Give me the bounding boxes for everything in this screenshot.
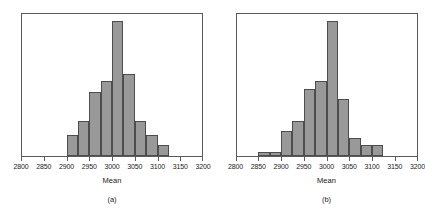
x-axis-ticklabel: 2850 xyxy=(251,162,266,171)
x-axis-tick xyxy=(158,157,159,161)
x-axis-ticklabels-a: 280028502900295030003050310031503200 xyxy=(21,162,203,174)
x-axis-tick xyxy=(258,157,259,161)
x-axis-tick xyxy=(44,157,45,161)
x-axis-ticklabels-b: 280028502900295030003050310031503200 xyxy=(236,162,418,174)
x-axis-tick xyxy=(180,157,181,161)
histogram-bar xyxy=(361,145,372,156)
histogram-bar xyxy=(135,121,146,157)
histogram-bar xyxy=(292,121,303,157)
x-axis-tick xyxy=(236,157,237,161)
x-axis-ticklabel: 2900 xyxy=(59,162,74,171)
histogram-bar xyxy=(123,74,134,156)
x-axis-tick xyxy=(372,157,373,161)
x-axis-tick xyxy=(395,157,396,161)
x-axis-tick xyxy=(304,157,305,161)
bar-series-b xyxy=(236,13,418,157)
x-axis-tick xyxy=(21,157,22,161)
panel-caption-a: (a) xyxy=(21,195,203,205)
plot-area-b: 280028502900295030003050310031503200 Mea… xyxy=(236,13,418,157)
histogram-bar xyxy=(101,81,112,156)
histogram-bar xyxy=(270,152,281,156)
x-axis-tick xyxy=(89,157,90,161)
histogram-bar xyxy=(258,152,269,156)
x-axis-tick xyxy=(202,157,203,161)
x-axis-ticklabel: 2950 xyxy=(296,162,311,171)
x-axis-ticklabel: 3150 xyxy=(387,162,402,171)
x-axis-ticklabel: 2850 xyxy=(36,162,51,171)
x-axis-tick xyxy=(327,157,328,161)
x-axis-ticklabel: 3000 xyxy=(319,162,334,171)
x-axis-ticklabel: 2950 xyxy=(82,162,97,171)
histogram-bar xyxy=(304,89,315,156)
histogram-bar xyxy=(349,138,360,156)
x-axis-ticklabel: 2900 xyxy=(274,162,289,171)
histogram-bar xyxy=(315,81,326,156)
histogram-bar xyxy=(338,99,349,156)
x-axis-title-a: Mean xyxy=(21,176,203,186)
histogram-bar xyxy=(372,145,383,156)
x-axis-tick xyxy=(281,157,282,161)
panel-b: 280028502900295030003050310031503200 Mea… xyxy=(212,0,424,212)
x-axis-ticklabel: 3050 xyxy=(127,162,142,171)
x-axis-ticklabel: 3100 xyxy=(150,162,165,171)
x-axis-ticklabel: 3050 xyxy=(342,162,357,171)
x-axis-ticklabel: 2800 xyxy=(228,162,243,171)
histogram-bar xyxy=(89,92,100,156)
plot-area-a: 280028502900295030003050310031503200 Mea… xyxy=(21,13,203,157)
x-axis-ticklabel: 3000 xyxy=(105,162,120,171)
x-axis-tick xyxy=(417,157,418,161)
histogram-bar xyxy=(158,145,169,156)
panel-a: 280028502900295030003050310031503200 Mea… xyxy=(0,0,212,212)
bar-series-a xyxy=(21,13,203,157)
histogram-bar xyxy=(67,135,78,156)
x-axis-tick xyxy=(67,157,68,161)
x-axis-ticklabel: 3200 xyxy=(196,162,211,171)
panel-caption-b: (b) xyxy=(236,195,418,205)
x-axis-ticklabel: 3150 xyxy=(173,162,188,171)
histogram-bar xyxy=(112,21,123,156)
x-axis-tick xyxy=(135,157,136,161)
histogram-bar xyxy=(146,135,157,156)
histogram-bar xyxy=(78,121,89,157)
histogram-bar xyxy=(327,21,338,156)
x-axis-ticklabel: 2800 xyxy=(14,162,29,171)
x-axis-tick xyxy=(112,157,113,161)
x-axis-title-b: Mean xyxy=(236,176,418,186)
histogram-bar xyxy=(281,131,292,156)
x-axis-tick xyxy=(349,157,350,161)
x-axis-ticklabel: 3100 xyxy=(365,162,380,171)
x-axis-ticklabel: 3200 xyxy=(410,162,425,171)
